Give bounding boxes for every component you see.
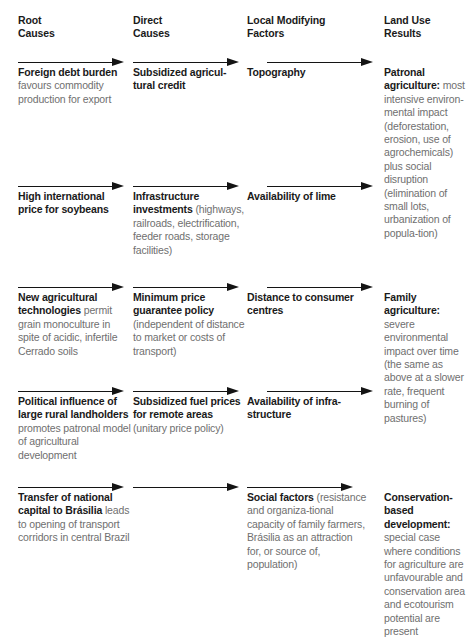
cell-bold-text: Infrastructure investments	[133, 190, 199, 215]
cell-bold-text: Availability of lime	[247, 190, 336, 202]
column-header-local-modifying-factors: Local Modifying Factors	[247, 14, 377, 40]
cell-body-text: (unitary price policy)	[133, 422, 224, 434]
cell-row4-direct-causes: Subsidized fuel prices for remote areas …	[133, 395, 245, 435]
cell-bold-text: Subsidized fuel prices for remote areas	[133, 395, 241, 420]
cell-row3-direct-causes: Minimum price guarantee policy (independ…	[133, 291, 245, 358]
cell-body-text: (independent of distance to market or co…	[133, 318, 244, 357]
cell-row5-root-causes: Transfer of national capital to Brásilia…	[18, 491, 130, 545]
cell-bold-text: Transfer of national capital to Brásilia	[18, 491, 112, 516]
cell-row4-local-modifying-factors: Availability of infra-structure	[247, 395, 371, 422]
flow-arrow-row5-col2-to-col3	[133, 483, 239, 492]
cell-bold-text: Availability of infra-structure	[247, 395, 341, 420]
cell-bold-text: Family agriculture:	[384, 291, 440, 316]
cell-row3-root-causes: New agricultural technologies permit gra…	[18, 291, 130, 358]
cell-row2-root-causes: High international price for soybeans	[18, 190, 130, 217]
cell-row2-direct-causes: Infrastructure investments (highways, ra…	[133, 190, 245, 257]
cell-row1-direct-causes: Subsidized agricul-​tural credit	[133, 66, 243, 93]
column-header-root-causes: Root Causes	[18, 14, 128, 40]
column-header-land-use-results: Land Use Results	[384, 14, 469, 40]
cell-bold-text: Conservation-based development:	[384, 491, 453, 530]
cell-bold-text: Political influence of large rural landh…	[18, 395, 128, 420]
cell-bold-text: Patronal agriculture:	[384, 66, 440, 91]
cell-body-text: most intensive environ-mental impact (de…	[384, 79, 465, 238]
cell-bold-text: Foreign debt burden	[18, 66, 117, 78]
cell-bold-text: Social factors	[247, 491, 314, 503]
cell-bold-text: Topography	[247, 66, 305, 78]
cell-bold-text: Subsidized agricul-​tural credit	[133, 66, 226, 91]
column-header-direct-causes: Direct Causes	[133, 14, 243, 40]
cell-row4-root-causes: Political influence of large rural landh…	[18, 395, 133, 462]
cell-row1-root-causes: Foreign debt burden favours commodity pr…	[18, 66, 130, 106]
cell-body-text: special case where conditions for agricu…	[384, 531, 465, 637]
cell-body-text: severe environmental impact over time (t…	[384, 318, 464, 424]
cell-body-text: promotes patronal model of agricultural …	[18, 422, 131, 461]
cell-row5-land-use-results: Conservation-based development: special …	[384, 491, 469, 638]
cell-row3-land-use-results: Family agriculture: severe environmental…	[384, 291, 469, 425]
cell-body-text: favours commodity production for export	[18, 79, 111, 104]
cell-row2-local-modifying-factors: Availability of lime	[247, 190, 379, 203]
cell-bold-text: Minimum price guarantee policy	[133, 291, 214, 316]
cell-row3-local-modifying-factors: Distance to consumer centres	[247, 291, 379, 318]
cell-row1-local-modifying-factors: Topography	[247, 66, 379, 79]
cell-row1-land-use-results: Patronal agriculture: most intensive env…	[384, 66, 469, 240]
cell-bold-text: Distance to consumer centres	[247, 291, 354, 316]
cell-bold-text: High international price for soybeans	[18, 190, 109, 215]
cell-row5-local-modifying-factors: Social factors (resistance and organiza-…	[247, 491, 369, 571]
